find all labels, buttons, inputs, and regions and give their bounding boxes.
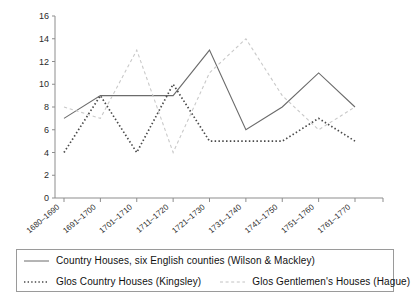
x-tick-label: 1680–1690 [25,202,62,235]
legend-label-glos-country-houses: Glos Country Houses (Kingsley) [56,276,201,287]
x-tick-label: 1731–1740 [207,202,244,235]
y-tick-label: 6 [44,125,49,135]
legend-label-country-houses: Country Houses, six English counties (Wi… [56,255,315,266]
y-tick-label: 8 [44,102,49,112]
data-series-group [64,39,355,153]
x-tick-label: 1701–1710 [98,202,135,235]
x-tick-label: 1691–1700 [61,202,98,235]
legend-row-1: Country Houses, six English counties (Wi… [17,250,393,271]
legend-label-glos-gentlemens-houses: Glos Gentlemen's Houses (Hague) [252,276,410,287]
legend-swatch-dashed-line-icon [219,277,246,287]
line-chart-figure: 0246810121416 1680–16901691–17001701–171… [0,0,412,302]
x-tick-label: 1711–1720 [134,202,170,235]
legend-row-2: Glos Country Houses (Kingsley) Glos Gent… [17,271,393,292]
x-axis [55,198,383,202]
plot-area: 0246810121416 1680–16901691–17001701–171… [0,0,412,245]
legend: Country Houses, six English counties (Wi… [16,249,394,292]
y-tick-label: 4 [44,148,49,158]
y-tick-label: 10 [39,79,49,89]
legend-entry-glos-gentlemens-houses: Glos Gentlemen's Houses (Hague) [219,276,410,287]
x-tick-label: 1721–1730 [170,202,207,235]
y-tick-label: 12 [39,57,49,67]
series-line-1 [64,50,355,130]
chart-svg: 0246810121416 1680–16901691–17001701–171… [0,0,412,245]
legend-swatch-solid-line-icon [23,256,50,266]
legend-entry-country-houses: Country Houses, six English counties (Wi… [23,255,315,266]
y-tick-label: 2 [44,170,49,180]
y-axis: 0246810121416 [39,11,55,203]
x-tick-label: 1741–1750 [243,202,280,235]
x-tick-label: 1761–1770 [316,202,353,235]
x-tick-labels: 1680–16901691–17001701–17101711–17201721… [25,202,353,235]
y-tick-label: 0 [44,193,49,203]
y-tick-label: 16 [39,11,49,21]
legend-swatch-dotted-line-icon [23,277,50,287]
legend-entry-glos-country-houses: Glos Country Houses (Kingsley) [23,276,201,287]
x-tick-label: 1751–1760 [279,202,316,235]
y-tick-label: 14 [39,34,49,44]
series-line-2 [64,84,355,152]
